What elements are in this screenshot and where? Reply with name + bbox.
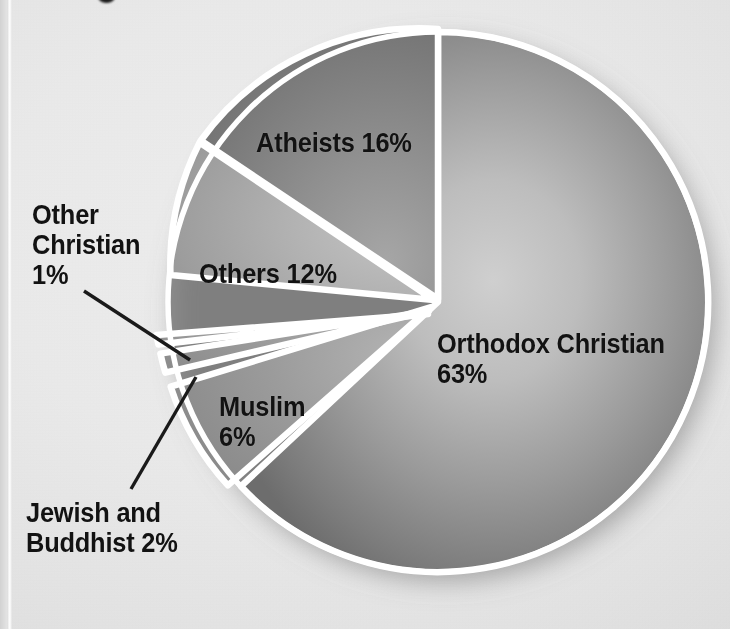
slice-label-muslim: Muslim 6% bbox=[219, 392, 305, 452]
slice-label-others: Others 12% bbox=[199, 259, 337, 289]
chart-page: Atheists 16% Others 12% Orthodox Christi… bbox=[0, 0, 730, 629]
slice-label-atheists: Atheists 16% bbox=[256, 128, 412, 158]
leader-line-jewish-and-buddhist bbox=[131, 377, 196, 489]
slice-label-orthodox-christian: Orthodox Christian 63% bbox=[437, 329, 665, 389]
slice-label-other-christian: Other Christian 1% bbox=[32, 200, 140, 291]
slice-label-jewish-and-buddhist: Jewish and Buddhist 2% bbox=[26, 498, 178, 558]
